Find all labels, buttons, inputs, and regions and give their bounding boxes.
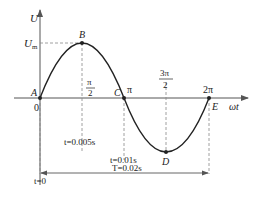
label-c: C	[114, 87, 121, 98]
tick-two-pi: 2π	[203, 84, 213, 95]
y-axis-label: U	[30, 12, 39, 24]
point-c	[122, 96, 126, 100]
label-a: A	[30, 87, 38, 98]
t-quarter-label: t=0.005s	[64, 137, 96, 147]
label-d: D	[161, 156, 170, 167]
origin-label: 0	[34, 102, 39, 113]
um-label: Um	[24, 37, 38, 51]
tick-half-pi-den: 2	[88, 88, 93, 98]
x-axis-label: ωt	[229, 101, 239, 112]
tick-pi: π	[127, 84, 132, 95]
point-d	[164, 150, 168, 154]
point-a	[38, 96, 42, 100]
t-zero-label: t=0	[34, 176, 47, 186]
tick-three-half-pi-num: 3π	[160, 68, 170, 78]
label-e: E	[211, 101, 218, 112]
period-label: T=0.02s	[112, 163, 142, 173]
label-b: B	[79, 29, 85, 40]
sine-diagram: U ωt 0 Um A B C D E π 2 π 3π 2 2π t=0.00…	[0, 0, 254, 197]
tick-three-half-pi-den: 2	[163, 80, 168, 90]
tick-half-pi-num: π	[87, 77, 92, 87]
point-b	[80, 41, 84, 45]
point-e	[207, 96, 211, 100]
